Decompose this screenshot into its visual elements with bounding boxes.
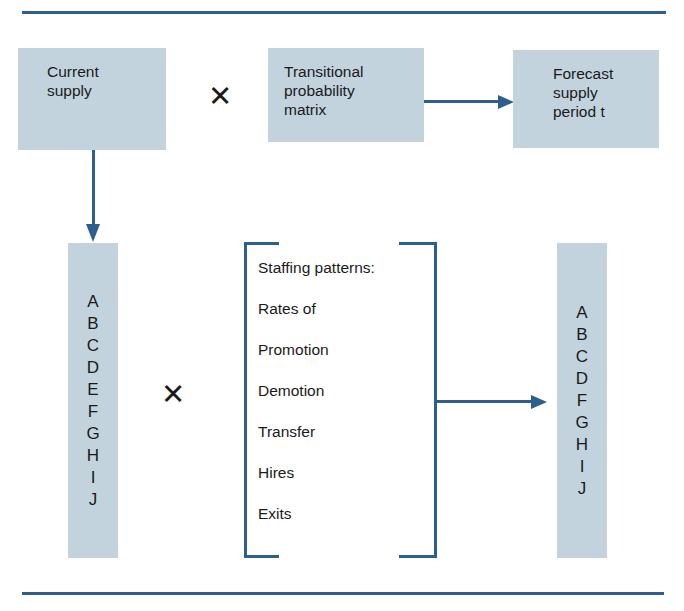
top-divider-rule	[22, 11, 666, 14]
letter-item: D	[86, 357, 99, 379]
letter-item: H	[86, 445, 99, 467]
letter-item: J	[86, 489, 99, 511]
label-current-supply: Current supply	[47, 62, 167, 100]
staffing-pattern-line: Exits	[258, 504, 433, 545]
bracket-staffing-patterns: Staffing patterns:Rates ofPromotionDemot…	[244, 242, 437, 558]
letter-item: F	[86, 401, 99, 423]
letter-item: A	[575, 302, 588, 324]
staffing-pattern-line: Transfer	[258, 422, 433, 463]
label-forecast-supply: Forecast supply period t	[553, 64, 673, 121]
letter-item: G	[575, 412, 588, 434]
bracket-left-top-arm	[244, 242, 279, 245]
bracket-right-top-arm	[399, 242, 437, 245]
letter-item: A	[86, 291, 99, 313]
arrow-shaft	[92, 150, 95, 226]
arrow-head-icon	[86, 224, 100, 242]
letter-item: C	[86, 335, 99, 357]
bracket-left-bottom-arm	[244, 555, 279, 558]
staffing-pattern-line: Demotion	[258, 381, 433, 422]
bracket-left-stem	[244, 242, 247, 558]
letter-item: B	[86, 313, 99, 335]
multiply-operator-middle: ✕	[161, 380, 185, 409]
letter-item: J	[575, 478, 588, 500]
staffing-pattern-line: Promotion	[258, 340, 433, 381]
letter-item: H	[575, 434, 588, 456]
arrow-shaft	[437, 400, 533, 403]
letter-item: I	[86, 467, 99, 489]
label-transitional-probability-matrix: Transitional probability matrix	[284, 62, 424, 119]
letter-item: B	[575, 324, 588, 346]
arrow-shaft	[424, 100, 500, 103]
column-forecast-supply-levels: ABCDFGHIJ	[557, 243, 607, 558]
arrow-head-icon	[498, 95, 514, 109]
letter-item: C	[575, 346, 588, 368]
staffing-pattern-line: Hires	[258, 463, 433, 504]
letter-item: D	[575, 368, 588, 390]
bottom-divider-rule	[22, 592, 664, 595]
staffing-pattern-line: Staffing patterns:	[258, 258, 433, 299]
arrow-head-icon	[531, 395, 547, 409]
staffing-pattern-line: Rates of	[258, 299, 433, 340]
letter-item: F	[575, 390, 588, 412]
column-current-supply-levels: ABCDEFGHIJ	[68, 243, 118, 558]
letter-list-right: ABCDFGHIJ	[575, 302, 588, 500]
bracket-right-bottom-arm	[399, 555, 437, 558]
letter-item: G	[86, 423, 99, 445]
staffing-pattern-list: Staffing patterns:Rates ofPromotionDemot…	[258, 258, 433, 545]
multiply-operator-top: ✕	[208, 82, 232, 111]
letter-item: E	[86, 379, 99, 401]
diagram-canvas: Current supply ✕ Transitional probabilit…	[0, 0, 684, 611]
letter-list-left: ABCDEFGHIJ	[86, 291, 99, 511]
letter-item: I	[575, 456, 588, 478]
